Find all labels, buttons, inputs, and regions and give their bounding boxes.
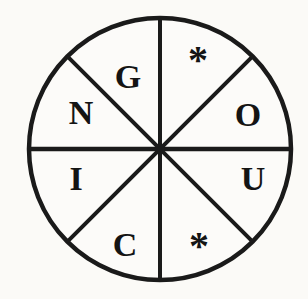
sector-label-i: I — [69, 160, 82, 197]
sector-label-n: N — [69, 94, 94, 131]
spinner-diagram: * O U * C I N G — [0, 0, 308, 299]
sector-label-g: G — [115, 58, 141, 95]
sector-label-u: U — [241, 160, 266, 197]
sector-label-c: C — [113, 226, 138, 263]
sector-label-star-bottom: * — [189, 223, 209, 268]
spinner-figure-page: * O U * C I N G — [0, 0, 308, 299]
sector-label-star-top: * — [188, 37, 208, 82]
sector-label-o: O — [235, 96, 261, 133]
